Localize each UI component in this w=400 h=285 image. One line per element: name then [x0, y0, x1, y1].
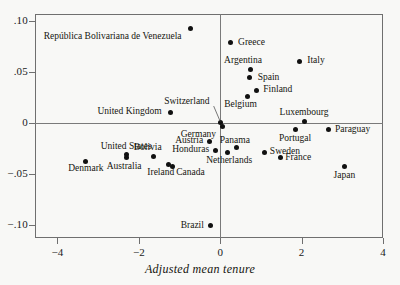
x-tick-label: 4: [380, 246, 386, 258]
x-tick-mark: [302, 238, 303, 244]
x-tick-mark: [139, 238, 140, 244]
data-point[interactable]: [220, 124, 225, 129]
data-point-label: Paraguay: [335, 125, 370, 135]
data-point[interactable]: [188, 26, 193, 31]
data-point[interactable]: [342, 164, 347, 169]
data-point-label: Italy: [307, 56, 324, 66]
data-point[interactable]: [170, 164, 175, 169]
x-tick-mark: [220, 238, 221, 244]
y-tick-label: 0: [22, 116, 28, 128]
data-point-label: Belgium: [224, 100, 257, 110]
data-point[interactable]: [124, 155, 129, 160]
data-point[interactable]: [293, 127, 298, 132]
data-point-label: United Kingdom: [97, 107, 161, 117]
data-point[interactable]: [254, 88, 259, 93]
x-axis-title: Adjusted mean tenure: [0, 262, 400, 277]
data-point-label: Ireland: [147, 168, 174, 178]
data-point[interactable]: [213, 148, 218, 153]
y-tick-label: .05: [14, 65, 28, 77]
data-point[interactable]: [228, 40, 233, 45]
data-point-label: Finland: [263, 85, 292, 95]
x-tick-label: 0: [217, 246, 223, 258]
data-point[interactable]: [247, 75, 252, 80]
data-point[interactable]: [207, 139, 212, 144]
data-point-label: Argentina: [224, 56, 262, 66]
zero-horizontal-reference-line: [35, 123, 383, 124]
data-point[interactable]: [326, 127, 331, 132]
x-tick-mark: [57, 238, 58, 244]
data-point-label: Panama: [220, 137, 250, 147]
data-point-label: Portugal: [279, 134, 311, 144]
data-point-label: Honduras: [172, 145, 209, 155]
data-point[interactable]: [168, 110, 173, 115]
data-point-label: Australia: [107, 162, 142, 172]
data-point-label: Spain: [258, 73, 280, 83]
y-tick-label: .10: [14, 14, 28, 26]
data-point[interactable]: [151, 154, 156, 159]
data-point[interactable]: [234, 145, 239, 150]
x-tick-label: 2: [299, 246, 305, 258]
data-point-label: Brazil: [181, 221, 204, 231]
data-point-label: Denmark: [68, 165, 103, 175]
data-point-label: República Bolivariana de Venezuela: [44, 32, 182, 42]
x-tick-mark: [383, 238, 384, 244]
scatter-plot-figure: .10.050−.05−.10 −4−2024 República Boliva…: [0, 0, 400, 285]
y-tick-label: −.05: [7, 167, 28, 179]
data-point[interactable]: [278, 155, 283, 160]
x-tick-label: −4: [52, 246, 64, 258]
plot-area: República Bolivariana de VenezuelaGreece…: [35, 14, 383, 238]
x-tick-label: −2: [133, 246, 145, 258]
data-point-label: Netherlands: [206, 156, 252, 166]
data-point-label: Greece: [238, 38, 265, 48]
data-point[interactable]: [248, 67, 253, 72]
data-point-label: Japan: [334, 171, 356, 181]
y-tick-label: −.10: [7, 218, 28, 230]
data-point-label: United States: [101, 142, 152, 152]
data-point[interactable]: [297, 59, 302, 64]
data-point-label: Luxembourg: [280, 108, 329, 118]
data-point[interactable]: [208, 223, 213, 228]
data-point-label: France: [285, 153, 311, 163]
data-point-label: Switzerland: [164, 97, 209, 107]
data-point[interactable]: [262, 150, 267, 155]
data-point-label: Canada: [176, 168, 205, 178]
